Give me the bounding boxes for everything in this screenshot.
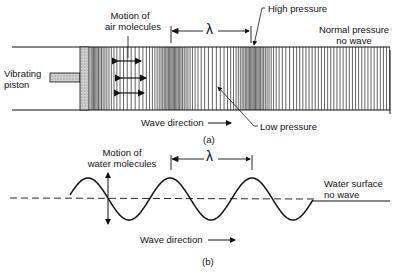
piston-plate bbox=[80, 47, 89, 110]
piston-label-line1: Vibrating bbox=[4, 68, 41, 79]
piston-rod bbox=[50, 73, 80, 82]
wave-direction-label-b: Wave direction bbox=[140, 234, 202, 245]
piston-label: Vibrating piston bbox=[4, 68, 41, 90]
normal-pressure-line2: no wave bbox=[318, 35, 390, 46]
air-motion-label: Motion of air molecules bbox=[105, 10, 155, 32]
water-motion-label-line1: Motion of bbox=[84, 147, 160, 158]
wave-direction-label-a: Wave direction bbox=[141, 117, 203, 128]
normal-pressure-label: Normal pressure no wave bbox=[318, 24, 390, 46]
normal-pressure-line1: Normal pressure bbox=[318, 24, 390, 35]
caption-b: (b) bbox=[202, 256, 214, 267]
lambda-label-a: λ bbox=[206, 24, 213, 35]
air-motion-label-line1: Motion of bbox=[105, 10, 155, 21]
water-surface-line1: Water surface bbox=[324, 178, 383, 189]
water-motion-label-line2: water molecules bbox=[84, 158, 160, 169]
lambda-label-b: λ bbox=[206, 151, 213, 162]
high-pressure-label: High pressure bbox=[268, 3, 327, 14]
high-pressure-pointer bbox=[254, 8, 265, 45]
piston-label-line2: piston bbox=[4, 79, 41, 90]
caption-a: (a) bbox=[203, 134, 215, 145]
air-tube bbox=[12, 47, 390, 114]
still-water-line bbox=[10, 198, 315, 199]
low-pressure-label: Low pressure bbox=[260, 121, 317, 132]
water-surface-label: Water surface no wave bbox=[324, 178, 383, 200]
air-motion-arrows bbox=[118, 36, 146, 93]
water-motion-label: Motion of water molecules bbox=[84, 147, 160, 169]
air-motion-label-line2: air molecules bbox=[105, 21, 155, 32]
water-surface-line2: no wave bbox=[324, 189, 383, 200]
